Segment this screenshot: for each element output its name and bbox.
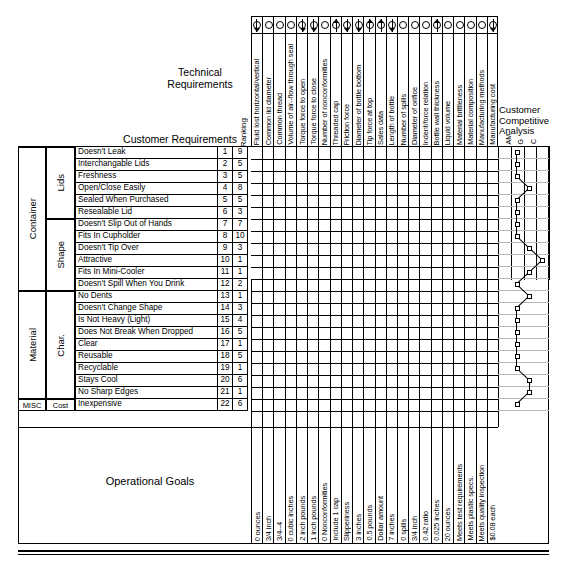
direction-of-improvement-cell[interactable] (419, 16, 430, 34)
customer-requirement-name[interactable]: Recyclable (75, 363, 218, 375)
table-row[interactable]: Doesn't Slip Out of Hands77 (75, 219, 251, 231)
technical-requirement-header[interactable]: Diameter of orifice (408, 34, 419, 147)
direction-of-improvement-cell[interactable] (408, 16, 419, 34)
table-row[interactable]: Inexpensive226 (75, 399, 251, 411)
operational-goal-cell[interactable]: 3/4 inch (408, 427, 419, 544)
table-row[interactable]: Open/Close Easily48 (75, 183, 251, 195)
customer-requirement-ranking[interactable]: 5 (233, 351, 248, 363)
direction-of-improvement-cell[interactable] (386, 16, 397, 34)
table-row[interactable]: Is Not Heavy (Light)154 (75, 315, 251, 327)
table-row[interactable]: Interchangable Lids25 (75, 159, 251, 171)
technical-requirement-header[interactable]: Sales data (375, 34, 386, 147)
competitive-data-point[interactable] (515, 318, 520, 323)
technical-requirement-header[interactable]: Volume of air--flow through seal (285, 34, 296, 147)
customer-requirement-name[interactable]: Is Not Heavy (Light) (75, 315, 218, 327)
table-row[interactable]: Clear171 (75, 339, 251, 351)
operational-goal-cell[interactable]: 0.42 ratio (419, 427, 430, 544)
operational-goal-cell[interactable]: 0 spills (397, 427, 408, 544)
direction-of-improvement-cell[interactable] (453, 16, 464, 34)
table-row[interactable]: Sealed When Purchased55 (75, 195, 251, 207)
competitive-data-point[interactable] (515, 306, 520, 311)
direction-of-improvement-cell[interactable] (251, 16, 262, 34)
direction-of-improvement-cell[interactable] (442, 16, 453, 34)
competitive-data-point[interactable] (540, 258, 545, 263)
customer-requirement-name[interactable]: Open/Close Easily (75, 183, 218, 195)
technical-requirement-header[interactable]: Bottle wall thickness (431, 34, 442, 147)
technical-requirement-header[interactable]: Fluid lost horizontal/vertical (251, 34, 262, 147)
table-row[interactable]: Doesn't Spill When You Drink122 (75, 279, 251, 291)
direction-of-improvement-cell[interactable] (375, 16, 386, 34)
operational-goal-cell[interactable]: 1 inch pounds (307, 427, 318, 544)
customer-requirement-ranking[interactable]: 1 (233, 339, 248, 351)
customer-requirement-ranking[interactable]: 3 (233, 303, 248, 315)
customer-requirement-name[interactable]: Clear (75, 339, 218, 351)
competitive-data-point[interactable] (515, 174, 520, 179)
competitive-data-point[interactable] (515, 198, 520, 203)
technical-requirement-header[interactable]: Manufacturing methods (476, 34, 487, 147)
customer-requirement-ranking[interactable]: 1 (233, 363, 248, 375)
table-row[interactable]: Freshness35 (75, 171, 251, 183)
operational-goal-cell[interactable]: 3 inches (352, 427, 363, 544)
operational-goal-cell[interactable]: 0.5 pounds (363, 427, 374, 544)
customer-requirement-name[interactable]: Reusable (75, 351, 218, 363)
technical-requirement-header[interactable]: Material brittleness (453, 34, 464, 147)
technical-requirement-header[interactable]: Manufacturing cost (487, 34, 498, 147)
customer-requirement-name[interactable]: Fits In Cupholder (75, 231, 218, 243)
customer-requirement-name[interactable]: Resealable Lid (75, 207, 218, 219)
operational-goal-cell[interactable]: 2 inch pounds (296, 427, 307, 544)
direction-of-improvement-cell[interactable] (397, 16, 408, 34)
customer-requirement-ranking[interactable]: 1 (233, 291, 248, 303)
competitive-data-point[interactable] (515, 330, 520, 335)
operational-goal-cell[interactable]: Dollar amount (375, 427, 386, 544)
table-row[interactable]: Stays Cool206 (75, 375, 251, 387)
operational-goal-cell[interactable]: 7 inches (386, 427, 397, 544)
direction-of-improvement-cell[interactable] (363, 16, 374, 34)
operational-goal-cell[interactable]: 0.025 inches (431, 427, 442, 544)
operational-goal-cell[interactable]: Meets plastic specs. (464, 427, 475, 544)
customer-requirement-name[interactable]: Stays Cool (75, 375, 218, 387)
customer-requirement-name[interactable]: No Sharp Edges (75, 387, 218, 399)
direction-of-improvement-cell[interactable] (318, 16, 329, 34)
competitive-data-point[interactable] (515, 342, 520, 347)
technical-requirement-header[interactable]: Liquid volume (442, 34, 453, 147)
competitive-data-point[interactable] (527, 186, 532, 191)
table-row[interactable]: Fits In Mini-Cooler111 (75, 267, 251, 279)
customer-requirement-name[interactable]: Doesn't Leak (75, 147, 218, 159)
customer-requirement-ranking[interactable]: 5 (233, 195, 248, 207)
direction-of-improvement-cell[interactable] (307, 16, 318, 34)
customer-requirement-name[interactable]: Doesn't Change Shape (75, 303, 218, 315)
technical-requirement-header[interactable]: Length of bottle (386, 34, 397, 147)
technical-requirement-header[interactable]: Number of spills (397, 34, 408, 147)
customer-requirement-ranking[interactable]: 1 (233, 267, 248, 279)
direction-of-improvement-cell[interactable] (273, 16, 284, 34)
customer-requirement-ranking[interactable]: 1 (233, 255, 248, 267)
direction-of-improvement-cell[interactable] (285, 16, 296, 34)
competitive-data-point[interactable] (527, 294, 532, 299)
technical-requirement-header[interactable]: Friction force (341, 34, 352, 147)
customer-requirement-name[interactable]: Interchangable Lids (75, 159, 218, 171)
direction-of-improvement-cell[interactable] (352, 16, 363, 34)
direction-of-improvement-cell[interactable] (431, 16, 442, 34)
operational-goal-cell[interactable]: 0 cubic inches (285, 427, 296, 544)
table-row[interactable]: Resealable Lid63 (75, 207, 251, 219)
technical-requirement-header[interactable]: Diameter of bottle bottom (352, 34, 363, 147)
customer-requirement-name[interactable]: No Dents (75, 291, 218, 303)
technical-requirement-header[interactable]: Common lid diameter (262, 34, 273, 147)
customer-requirement-name[interactable]: Freshness (75, 171, 218, 183)
operational-goal-cell[interactable]: 0 ounces (251, 427, 262, 544)
competitive-data-point[interactable] (515, 402, 520, 407)
direction-of-improvement-cell[interactable] (341, 16, 352, 34)
operational-goal-cell[interactable]: Include 1 cap (330, 427, 341, 544)
customer-requirement-name[interactable]: Attractive (75, 255, 218, 267)
customer-requirement-ranking[interactable]: 3 (233, 207, 248, 219)
customer-requirement-ranking[interactable]: 5 (233, 171, 248, 183)
customer-requirement-ranking[interactable]: 8 (233, 183, 248, 195)
competitive-data-point[interactable] (527, 378, 532, 383)
competitive-data-point[interactable] (515, 210, 520, 215)
customer-requirement-ranking[interactable]: 10 (233, 231, 248, 243)
customer-requirement-ranking[interactable]: 3 (233, 243, 248, 255)
competitive-data-point[interactable] (515, 282, 520, 287)
competitive-data-point[interactable] (515, 234, 520, 239)
customer-requirement-name[interactable]: Sealed When Purchased (75, 195, 218, 207)
customer-requirement-ranking[interactable]: 1 (233, 387, 248, 399)
